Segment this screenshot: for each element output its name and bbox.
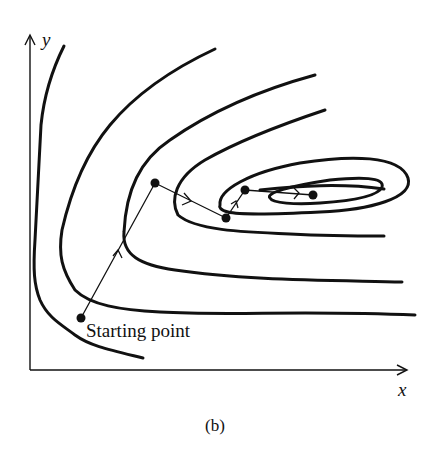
y-axis-label: y [40, 29, 51, 50]
contour-lines [34, 46, 415, 358]
contour-diagram: y x Starting point (b) [0, 0, 430, 462]
starting-point-marker [77, 314, 86, 323]
figure-caption: (b) [205, 416, 225, 435]
starting-point-label: Starting point [86, 320, 191, 341]
contour-4 [175, 110, 384, 236]
optimum-point-marker [309, 191, 318, 200]
x-axis-label: x [397, 379, 407, 400]
path-point-marker [222, 214, 231, 223]
path-point-marker [151, 179, 160, 188]
axes: y x [25, 29, 407, 400]
contour-7-inner-ellipse [269, 178, 382, 204]
path-point-marker [241, 186, 250, 195]
